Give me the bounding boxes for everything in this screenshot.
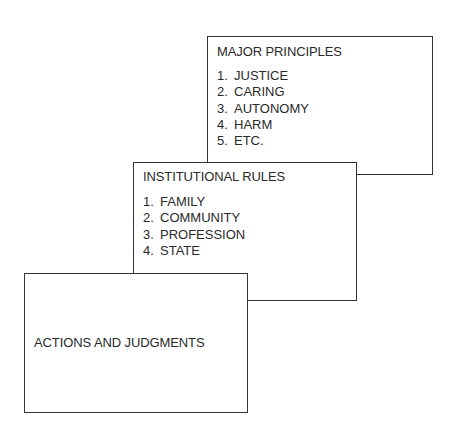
item-label: JUSTICE <box>234 68 288 84</box>
list-item: 1.FAMILY <box>143 194 245 210</box>
item-label: CARING <box>234 84 285 100</box>
item-number: 1. <box>143 194 160 210</box>
item-label: COMMUNITY <box>160 210 240 226</box>
item-label: ETC. <box>234 133 264 149</box>
item-number: 4. <box>217 117 234 133</box>
major-principles-title: MAJOR PRINCIPLES <box>217 44 342 60</box>
list-item: 3.PROFESSION <box>143 227 245 243</box>
item-number: 1. <box>217 68 234 84</box>
major-principles-box: MAJOR PRINCIPLES 1.JUSTICE 2.CARING 3.AU… <box>207 36 433 175</box>
list-item: 4.HARM <box>217 117 309 133</box>
item-number: 5. <box>217 133 234 149</box>
item-number: 3. <box>217 101 234 117</box>
list-item: 1.JUSTICE <box>217 68 309 84</box>
item-number: 3. <box>143 227 160 243</box>
item-number: 2. <box>217 84 234 100</box>
institutional-rules-title: INSTITUTIONAL RULES <box>143 169 285 185</box>
list-item: 3.AUTONOMY <box>217 101 309 117</box>
actions-and-judgments-title: ACTIONS AND JUDGMENTS <box>34 335 205 351</box>
list-item: 5.ETC. <box>217 133 309 149</box>
major-principles-list: 1.JUSTICE 2.CARING 3.AUTONOMY 4.HARM 5.E… <box>217 68 309 149</box>
item-label: FAMILY <box>160 194 205 210</box>
list-item: 4.STATE <box>143 243 245 259</box>
actions-and-judgments-box: ACTIONS AND JUDGMENTS <box>24 273 248 413</box>
list-item: 2.CARING <box>217 84 309 100</box>
item-label: PROFESSION <box>160 227 245 243</box>
item-number: 2. <box>143 210 160 226</box>
item-label: AUTONOMY <box>234 101 309 117</box>
list-item: 2.COMMUNITY <box>143 210 245 226</box>
item-number: 4. <box>143 243 160 259</box>
item-label: STATE <box>160 243 200 259</box>
institutional-rules-list: 1.FAMILY 2.COMMUNITY 3.PROFESSION 4.STAT… <box>143 194 245 259</box>
item-label: HARM <box>234 117 272 133</box>
